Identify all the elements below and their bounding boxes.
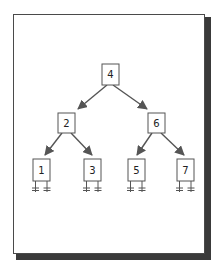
tree-node-6: 6 [148, 113, 165, 133]
null-pointer-icon [83, 181, 102, 192]
tree-node-3: 3 [83, 159, 102, 192]
edge-6-5 [137, 133, 152, 155]
edge-2-1 [45, 133, 62, 155]
edge-6-7 [161, 133, 184, 155]
tree-node-7: 7 [176, 159, 195, 192]
node-label: 2 [63, 118, 69, 129]
null-pointer-icon [32, 181, 51, 192]
tree-node-4: 4 [102, 64, 119, 85]
node-label: 3 [89, 165, 95, 176]
node-label: 6 [153, 118, 159, 129]
node-label: 4 [107, 69, 113, 80]
null-pointer-icon [127, 181, 146, 192]
edge-4-2 [78, 85, 107, 109]
tree-diagram: 4 2 6 1 3 5 [0, 0, 222, 271]
node-label: 1 [38, 165, 44, 176]
node-label: 5 [133, 165, 139, 176]
edge-2-3 [71, 133, 92, 155]
null-pointer-icon [176, 181, 195, 192]
tree-node-1: 1 [32, 159, 51, 192]
node-label: 7 [182, 165, 188, 176]
edge-4-6 [113, 85, 147, 109]
tree-node-2: 2 [58, 113, 75, 133]
tree-node-5: 5 [127, 159, 146, 192]
